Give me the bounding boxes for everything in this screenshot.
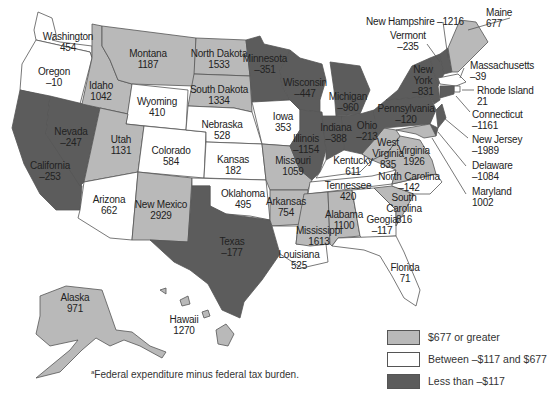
label-indiana: Indiana–388 <box>320 122 351 144</box>
label-maine: Maine677 <box>486 7 512 29</box>
label-vermont: Vermont–235 <box>390 30 426 52</box>
label-delaware: Delaware–1084 <box>472 160 513 182</box>
label-oregon: Oregon–10 <box>38 66 70 88</box>
legend-swatch-high <box>387 330 420 345</box>
label-massachusetts: Massachusetts–39 <box>470 60 534 82</box>
label-montana: Montana1187 <box>129 48 167 70</box>
label-florida: Florida71 <box>390 262 419 284</box>
legend-label-high: $677 or greater <box>428 331 500 343</box>
legend-item-low: Less than –$117 <box>387 370 547 392</box>
legend-swatch-mid <box>387 352 420 367</box>
label-new-hampshire: New Hampshire –1216 <box>366 16 464 27</box>
label-connecticut: Connecticut–1161 <box>472 109 523 131</box>
label-maryland: Maryland1002 <box>472 186 512 208</box>
label-nebraska: Nebraska528 <box>201 119 242 141</box>
legend: $677 or greater Between –$117 and $677 L… <box>387 326 547 392</box>
state-connecticut[interactable] <box>440 86 454 98</box>
label-rhode-island: Rhode Island21 <box>477 85 534 107</box>
label-idaho: Idaho1042 <box>89 80 113 102</box>
label-michigan: Michigan–960 <box>329 91 367 113</box>
footnote-text: Federal expenditure minus federal tax bu… <box>94 369 299 380</box>
label-nevada: Nevada–247 <box>54 126 87 148</box>
label-washington: Washington454 <box>43 31 93 53</box>
label-louisiana: Louisiana525 <box>278 249 319 271</box>
label-north-dakota: North Dakota1533 <box>191 48 248 70</box>
label-west-virginia: WestVirginia835 <box>372 137 404 170</box>
label-arizona: Arizona662 <box>93 194 126 216</box>
label-south-dakota: South Dakota1334 <box>190 84 248 106</box>
footnote: aFederal expenditure minus federal tax b… <box>91 369 299 380</box>
label-alaska: Alaska971 <box>61 292 90 314</box>
label-minnesota: Minnesota–351 <box>243 53 287 75</box>
label-new-york: NewYork–831 <box>412 64 433 97</box>
legend-label-low: Less than –$117 <box>428 375 505 387</box>
label-north-carolina: North Carolina–142 <box>378 171 440 193</box>
label-alabama: Alabama1100 <box>325 209 363 231</box>
label-south-carolina: SouthCarolina816 <box>386 192 422 225</box>
label-new-mexico: New Mexico2929 <box>135 199 187 221</box>
label-texas: Texas–177 <box>219 236 244 258</box>
label-pennsylvania: Pennsylvania–120 <box>377 103 434 125</box>
label-hawaii: Hawaii1270 <box>170 314 199 336</box>
label-kentucky: Kentucky611 <box>333 155 373 177</box>
state-rhode-island[interactable] <box>454 86 460 92</box>
legend-item-mid: Between –$117 and $677 <box>387 348 547 370</box>
label-colorado: Colorado584 <box>152 145 191 167</box>
label-iowa: Iowa353 <box>273 111 293 133</box>
label-oklahoma: Oklahoma495 <box>221 188 265 210</box>
label-wyoming: Wyoming410 <box>137 96 177 118</box>
state-new-jersey[interactable] <box>436 104 446 128</box>
state-alaska[interactable] <box>36 286 166 378</box>
label-tennessee: Tennessee420 <box>325 180 372 202</box>
legend-item-high: $677 or greater <box>387 326 547 348</box>
label-new-jersey: New Jersey–1989 <box>472 134 522 156</box>
label-wisconsin: Wisconsin–447 <box>283 77 327 99</box>
label-missouri: Missouri1059 <box>275 155 311 177</box>
label-arkansas: Arkansas754 <box>266 196 306 218</box>
legend-swatch-low <box>387 374 420 389</box>
label-utah: Utah1131 <box>111 134 132 156</box>
label-kansas: Kansas182 <box>217 154 249 176</box>
label-illinois: Illinois–1154 <box>293 133 319 155</box>
label-california: California–253 <box>30 160 70 182</box>
legend-label-mid: Between –$117 and $677 <box>428 353 547 365</box>
